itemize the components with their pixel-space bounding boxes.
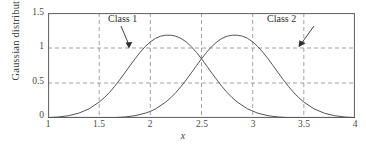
chart-canvas <box>48 13 355 118</box>
class-1-arrow <box>121 26 132 49</box>
annotation-class-1: Class 1 <box>108 13 137 24</box>
annotation-class-2: Class 2 <box>267 13 296 24</box>
gaussian-distributions-figure: Gaussian distributions 1.5 1 0.5 0 <box>0 0 366 144</box>
x-tick-label-3.5: 3.5 <box>289 119 319 129</box>
x-tick-label-1: 1 <box>33 119 63 129</box>
y-tick-label-1: 1 <box>8 41 44 51</box>
x-tick-label-1.5: 1.5 <box>84 119 114 129</box>
x-tick-label-2.5: 2.5 <box>187 119 217 129</box>
y-tick-label-0.5: 0.5 <box>8 76 44 86</box>
x-axis-label: x <box>0 130 366 141</box>
class-2-arrow <box>299 26 315 47</box>
x-tick-label-2: 2 <box>135 119 165 129</box>
y-tick-label-1.5: 1.5 <box>8 7 44 17</box>
x-tick-label-4: 4 <box>340 119 366 129</box>
plot-area <box>48 13 355 118</box>
grid-lines <box>48 13 355 118</box>
x-tick-label-3: 3 <box>238 119 268 129</box>
